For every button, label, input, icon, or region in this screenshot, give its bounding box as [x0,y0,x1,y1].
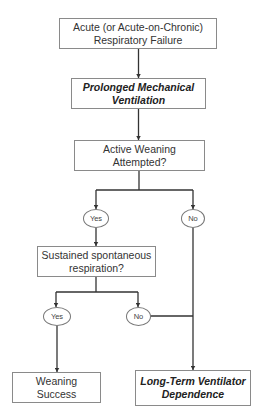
connectors [0,0,264,420]
node-prolonged-mechanical-ventilation: Prolonged Mechanical Ventilation [71,78,206,109]
node-respiratory-failure: Acute (or Acute-on-Chronic) Respiratory … [59,18,217,49]
node-label: No [188,214,198,223]
node-label: Yes [51,312,63,321]
node-label: Active Weaning Attempted? [103,143,176,169]
decision-no-1: No [181,209,205,228]
decision-yes-2: Yes [43,307,71,326]
node-label: Acute (or Acute-on-Chronic) Respiratory … [73,21,203,47]
node-sustained-respiration-question: Sustained spontaneous respiration? [37,246,156,277]
node-label: Yes [90,214,102,223]
node-label: No [134,312,144,321]
node-label: Prolonged Mechanical Ventilation [83,81,194,107]
decision-yes-1: Yes [83,209,109,228]
node-label: Weaning Success [36,375,77,401]
node-weaning-success: Weaning Success [12,372,101,403]
node-long-term-ventilator-dependence: Long-Term Ventilator Dependence [135,370,251,406]
decision-no-2: No [126,307,151,326]
node-label: Long-Term Ventilator Dependence [140,375,245,401]
node-label: Sustained spontaneous respiration? [42,249,152,275]
node-active-weaning-question: Active Weaning Attempted? [74,140,205,171]
